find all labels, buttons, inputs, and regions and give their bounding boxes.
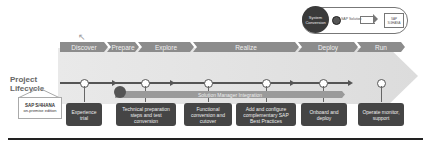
phase-run: Run <box>357 42 405 52</box>
legend-arrowhead-icon <box>373 14 378 24</box>
task-functional-conversion: Functional conversion and cutover <box>184 103 232 126</box>
phase-explore: Explore <box>138 42 194 52</box>
task-experience-trial: Experience trial <box>66 103 102 126</box>
mouse-cursor-icon: ↖ <box>78 32 86 42</box>
phase-bar: Discover Prepare Explore Realize Deploy … <box>60 42 404 52</box>
timeline-arrow-icon <box>112 80 117 86</box>
solution-manager-icon <box>114 86 126 98</box>
phase-deploy: Deploy <box>298 42 358 52</box>
legend-house-icon: SAP S/4HANA <box>384 13 404 28</box>
milestone-stem <box>381 86 382 102</box>
timeline-arrow-icon <box>348 80 353 86</box>
timeline-arrow-icon <box>170 80 175 86</box>
legend-solution-dot-icon <box>332 16 341 25</box>
solution-manager-integration-bar: Solution Manager Integration <box>115 91 345 98</box>
bottom-divider <box>8 138 423 140</box>
task-best-practices: Add and configure complementary SAP Best… <box>236 103 296 126</box>
timeline-arrow-icon <box>290 80 295 86</box>
legend-solution-label: SAP Solution <box>341 17 362 21</box>
phase-prepare: Prepare <box>107 42 139 52</box>
product-edition: on-premise edition <box>24 108 57 113</box>
task-onboard-deploy: Onboard and deploy <box>301 103 347 126</box>
milestone-stem <box>84 86 85 102</box>
phase-realize: Realize <box>193 42 299 52</box>
task-technical-preparation: Technical preparation steps and test con… <box>116 103 176 126</box>
product-tag: SAP S/4HANA on-premise edition <box>18 97 62 119</box>
task-operate-monitor: Operate monitor, support <box>358 103 404 126</box>
legend-system-conversion-circle: System Conversion <box>302 6 329 33</box>
phase-discover: Discover <box>60 42 108 52</box>
